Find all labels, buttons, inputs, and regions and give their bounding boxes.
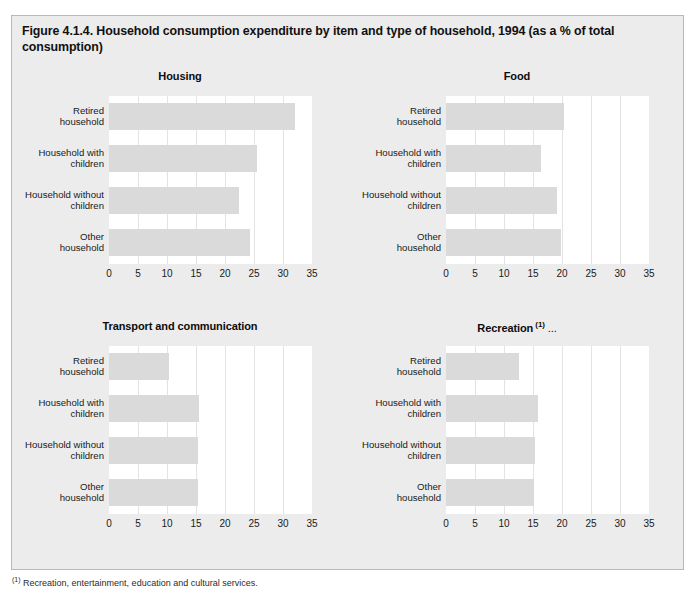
figure-footnote: (1) Recreation, entertainment, education… <box>12 576 612 588</box>
bar <box>109 145 257 172</box>
axis-tick-label: 30 <box>614 518 625 529</box>
category-label: Retiredhousehold <box>347 105 441 128</box>
bar <box>109 437 198 464</box>
category-label: Household withchildren <box>10 147 104 170</box>
chart-title-trailer: ... <box>545 322 557 334</box>
axis-tick-label: 15 <box>527 268 538 279</box>
category-label: Household withchildren <box>347 147 441 170</box>
chart-panel: HousingRetiredhouseholdHousehold withchi… <box>12 62 348 314</box>
chart-title: Transport and communication <box>12 320 348 332</box>
axis-tick-label: 5 <box>472 268 478 279</box>
axis-tick-label: 35 <box>643 518 654 529</box>
chart-panel: Recreation (1) ...RetiredhouseholdHouseh… <box>349 312 685 564</box>
value-axis: 05101520253035 <box>109 264 312 286</box>
plot-canvas <box>446 346 649 514</box>
charts-grid: HousingRetiredhouseholdHousehold withchi… <box>12 62 685 569</box>
axis-tick-label: 5 <box>472 518 478 529</box>
axis-tick-label: 0 <box>443 518 449 529</box>
bar <box>109 353 169 380</box>
category-label: Otherhousehold <box>10 231 104 254</box>
category-label: Otherhousehold <box>347 231 441 254</box>
category-label: Otherhousehold <box>10 481 104 504</box>
chart-title-text: Recreation <box>477 322 533 334</box>
category-label: Retiredhousehold <box>347 355 441 378</box>
bar <box>109 187 239 214</box>
category-label: Retiredhousehold <box>10 355 104 378</box>
value-axis: 05101520253035 <box>109 514 312 536</box>
axis-tick-label: 15 <box>190 268 201 279</box>
axis-tick-label: 10 <box>498 518 509 529</box>
plot-area: RetiredhouseholdHousehold withchildrenHo… <box>12 346 348 546</box>
axis-tick-label: 5 <box>135 518 141 529</box>
category-label: Household withoutchildren <box>10 439 104 462</box>
gridline <box>225 346 226 514</box>
axis-tick-label: 15 <box>527 518 538 529</box>
bar <box>446 437 535 464</box>
axis-tick-label: 25 <box>585 518 596 529</box>
plot-canvas <box>446 96 649 264</box>
plot-canvas <box>109 96 312 264</box>
category-label: Household withoutchildren <box>347 439 441 462</box>
footnote-text: Recreation, entertainment, education and… <box>21 578 258 588</box>
plot-area: RetiredhouseholdHousehold withchildrenHo… <box>349 96 685 296</box>
plot-area: RetiredhouseholdHousehold withchildrenHo… <box>349 346 685 546</box>
figure-panel: Figure 4.1.4. Household consumption expe… <box>11 15 684 570</box>
footnote-marker: (1) <box>12 576 21 583</box>
category-label: Household withoutchildren <box>347 189 441 212</box>
axis-tick-label: 25 <box>248 268 259 279</box>
gridline <box>591 96 592 264</box>
category-axis: RetiredhouseholdHousehold withchildrenHo… <box>349 96 445 264</box>
category-label: Household withoutchildren <box>10 189 104 212</box>
axis-tick-label: 25 <box>585 268 596 279</box>
bar <box>109 479 198 506</box>
bar <box>446 479 534 506</box>
category-axis: RetiredhouseholdHousehold withchildrenHo… <box>12 96 108 264</box>
bar <box>446 103 564 130</box>
axis-tick-label: 20 <box>219 518 230 529</box>
bar <box>109 229 250 256</box>
axis-tick-label: 30 <box>614 268 625 279</box>
axis-tick-label: 30 <box>277 518 288 529</box>
category-axis: RetiredhouseholdHousehold withchildrenHo… <box>12 346 108 514</box>
bar <box>446 353 519 380</box>
gridline <box>620 346 621 514</box>
chart-title-text: Transport and communication <box>103 320 258 332</box>
axis-tick-label: 10 <box>161 518 172 529</box>
bar <box>109 395 199 422</box>
axis-tick-label: 20 <box>556 268 567 279</box>
chart-title-text: Food <box>504 70 530 82</box>
axis-tick-label: 0 <box>106 268 112 279</box>
category-axis: RetiredhouseholdHousehold withchildrenHo… <box>349 346 445 514</box>
bar <box>446 395 538 422</box>
category-label: Retiredhousehold <box>10 105 104 128</box>
chart-panel: FoodRetiredhouseholdHousehold withchildr… <box>349 62 685 314</box>
axis-tick-label: 30 <box>277 268 288 279</box>
gridline <box>254 346 255 514</box>
axis-tick-label: 35 <box>643 268 654 279</box>
axis-tick-label: 0 <box>106 518 112 529</box>
axis-tick-label: 10 <box>498 268 509 279</box>
footnote-marker: (1) <box>533 320 545 329</box>
category-label: Household withchildren <box>347 397 441 420</box>
gridline <box>620 96 621 264</box>
axis-tick-label: 35 <box>306 518 317 529</box>
bar <box>446 229 561 256</box>
category-label: Household withchildren <box>10 397 104 420</box>
chart-panel: Transport and communicationRetiredhouseh… <box>12 312 348 564</box>
category-label: Otherhousehold <box>347 481 441 504</box>
bar <box>446 187 557 214</box>
chart-title-text: Housing <box>158 70 201 82</box>
axis-tick-label: 10 <box>161 268 172 279</box>
axis-tick-label: 25 <box>248 518 259 529</box>
axis-tick-label: 15 <box>190 518 201 529</box>
gridline <box>562 346 563 514</box>
axis-tick-label: 35 <box>306 268 317 279</box>
value-axis: 05101520253035 <box>446 514 649 536</box>
axis-tick-label: 20 <box>556 518 567 529</box>
bar <box>109 103 295 130</box>
plot-canvas <box>109 346 312 514</box>
bar <box>446 145 541 172</box>
gridline <box>591 346 592 514</box>
chart-title: Housing <box>12 70 348 82</box>
gridline <box>283 346 284 514</box>
